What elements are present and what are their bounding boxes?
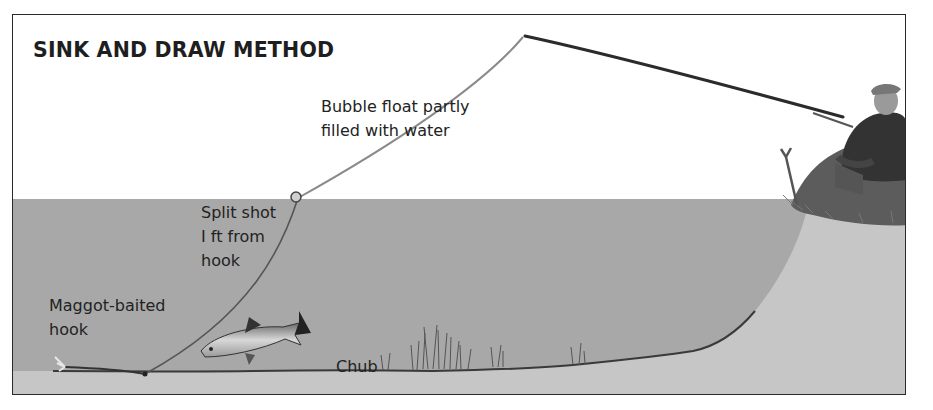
- rod-rest: [781, 148, 797, 205]
- fishing-rod: [525, 36, 843, 117]
- label-line: hook: [49, 318, 165, 342]
- label-line: filled with water: [321, 119, 470, 143]
- bubble-float: [291, 192, 301, 202]
- label-line: Split shot: [201, 201, 276, 225]
- diagram-frame: SINK AND DRAW METHOD Bubble float partly…: [12, 14, 906, 395]
- label-bubble-float: Bubble float partly filled with water: [321, 95, 470, 143]
- label-line: hook: [201, 249, 276, 273]
- label-chub: Chub: [336, 355, 378, 379]
- diagram-title: SINK AND DRAW METHOD: [33, 38, 334, 62]
- label-line: Bubble float partly: [321, 95, 470, 119]
- label-line: I ft from: [201, 225, 276, 249]
- split-shot: [143, 372, 148, 377]
- label-maggot-hook: Maggot-baited hook: [49, 294, 165, 342]
- angler-figure: [835, 84, 906, 195]
- label-line: Maggot-baited: [49, 294, 165, 318]
- label-split-shot: Split shot I ft from hook: [201, 201, 276, 273]
